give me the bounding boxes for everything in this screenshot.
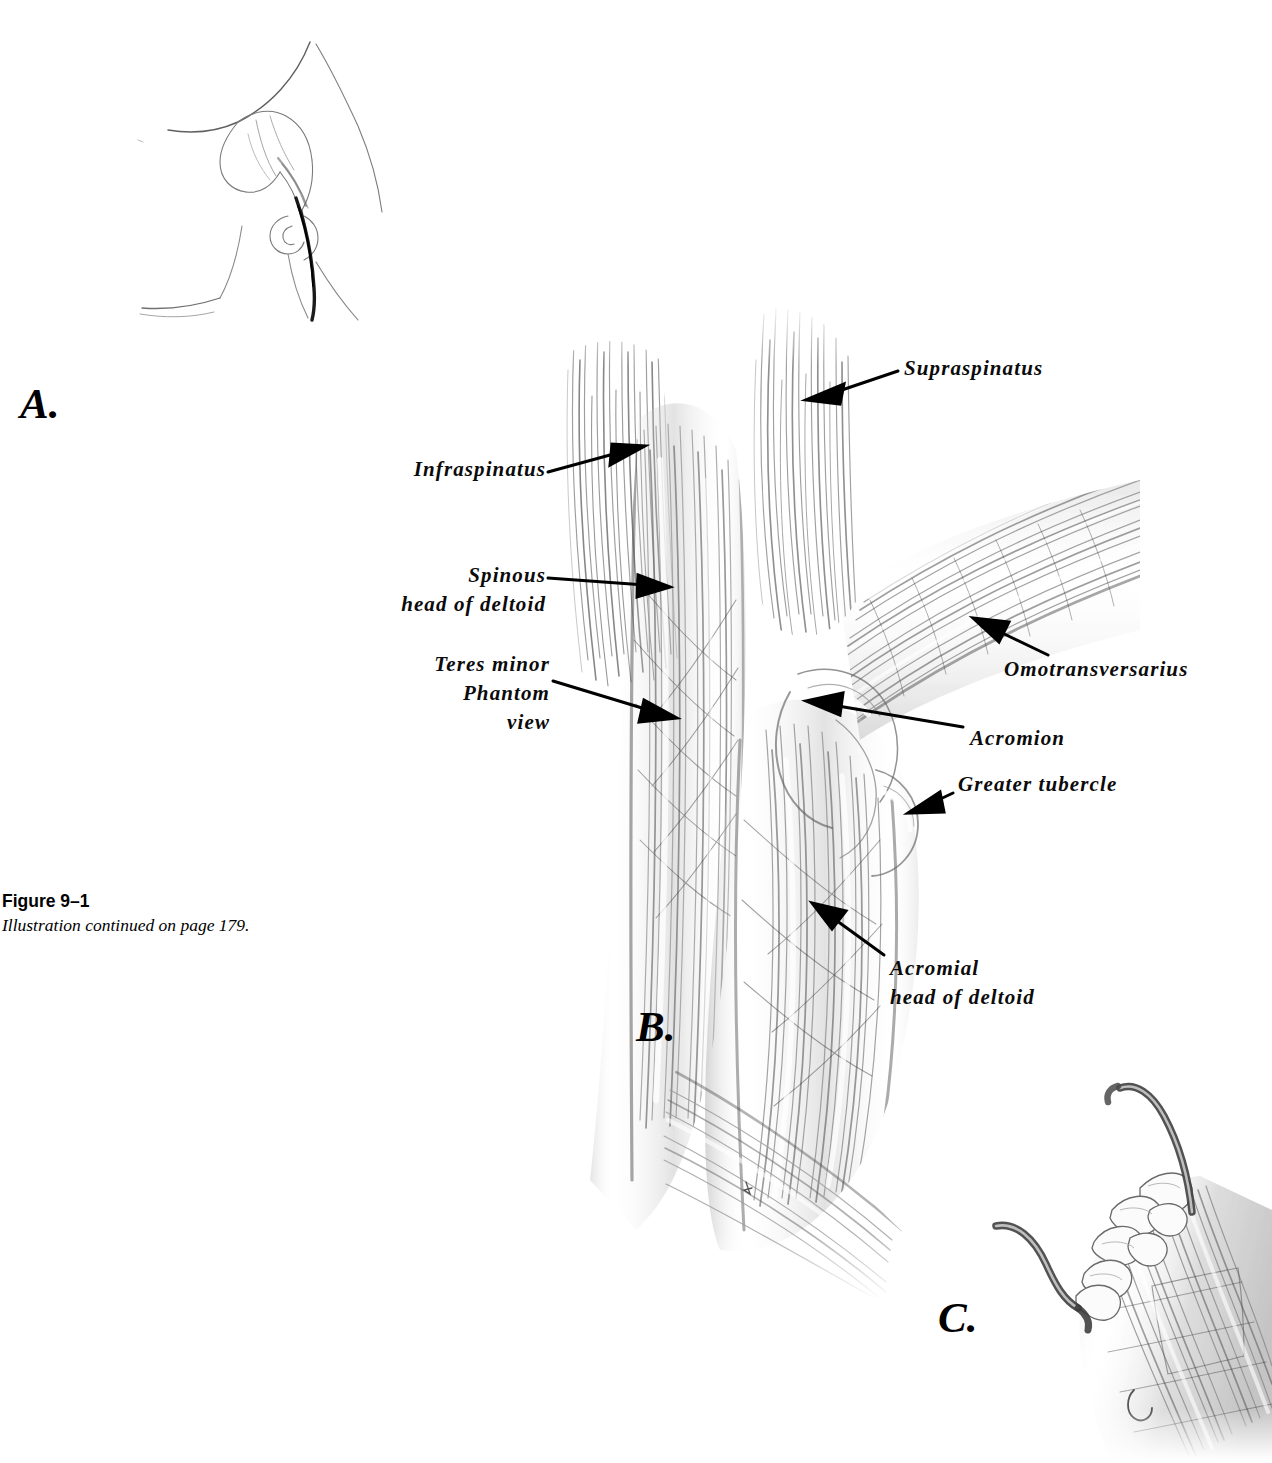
leader-lines — [0, 0, 1272, 1463]
label-acromial-head-of-deltoid: Acromial head of deltoid — [890, 954, 1035, 1012]
label-acromial-head-line-1: Acromial — [890, 954, 1035, 983]
label-spinous-head-line-2: head of deltoid — [258, 590, 546, 619]
leader-teres-minor — [553, 681, 677, 722]
figure-caption: Figure 9–1 Illustration continued on pag… — [2, 890, 422, 937]
label-omotransversarius: Omotransversarius — [1004, 655, 1188, 684]
label-acromial-head-line-2: head of deltoid — [890, 983, 1035, 1012]
label-spinous-head-line-1: Spinous — [258, 561, 546, 590]
label-spinous-head-of-deltoid: Spinous head of deltoid — [258, 561, 546, 619]
label-infraspinatus: Infraspinatus — [258, 455, 546, 484]
leader-acromion — [806, 693, 963, 727]
label-acromion: Acromion — [970, 724, 1065, 753]
label-teres-minor-line-3: view — [258, 708, 550, 737]
label-greater-tubercle: Greater tubercle — [958, 770, 1117, 799]
leader-supraspinatus — [806, 371, 898, 404]
leader-infraspinatus — [548, 444, 645, 472]
leader-spinous-head — [548, 575, 670, 597]
label-teres-minor-line-1: Teres minor — [258, 650, 550, 679]
leader-greater-tubercle — [908, 792, 953, 813]
leader-acromial-head — [812, 903, 884, 955]
label-supraspinatus-line-1: Supraspinatus — [904, 354, 1043, 383]
label-supraspinatus: Supraspinatus — [904, 354, 1043, 383]
label-infraspinatus-line-1: Infraspinatus — [258, 455, 546, 484]
label-omotransversarius-line-1: Omotransversarius — [1004, 655, 1188, 684]
figure-caption-subtitle: Illustration continued on page 179. — [2, 913, 422, 937]
label-teres-minor-line-2: Phantom — [258, 679, 550, 708]
figure-page: A. — [0, 0, 1272, 1463]
label-greater-tubercle-line-1: Greater tubercle — [958, 770, 1117, 799]
label-teres-minor-phantom-view: Teres minor Phantom view — [258, 650, 550, 737]
leader-omotransversarius — [973, 618, 1048, 655]
figure-caption-title: Figure 9–1 — [2, 890, 422, 913]
label-acromion-line-1: Acromion — [970, 724, 1065, 753]
